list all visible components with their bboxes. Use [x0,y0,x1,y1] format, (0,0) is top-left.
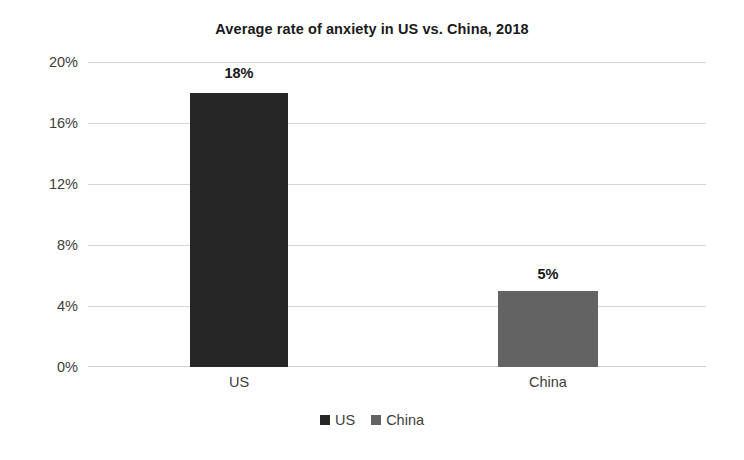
gridline-20 [88,62,706,63]
axis-baseline [88,366,706,367]
legend-swatch-icon-china [371,415,381,425]
gridline-12 [88,184,706,185]
legend-item-china[interactable]: China [371,412,424,428]
y-axis-tick-12: 12% [14,176,78,192]
bar-label-china: 5% [498,266,598,282]
y-axis-tick-16: 16% [14,115,78,131]
bar-chart: Average rate of anxiety in US vs. China,… [0,0,744,460]
gridline-16 [88,123,706,124]
y-axis-tick-4: 4% [14,298,78,314]
x-axis-label-us: US [190,374,288,390]
y-axis-tick-8: 8% [14,237,78,253]
y-axis-tick-20: 20% [14,54,78,70]
chart-title: Average rate of anxiety in US vs. China,… [0,21,744,37]
gridline-8 [88,245,706,246]
plot-area [88,62,706,367]
y-axis-tick-0: 0% [14,359,78,375]
chart-legend: US China [0,412,744,428]
legend-swatch-icon-us [320,415,330,425]
legend-item-us[interactable]: US [320,412,355,428]
bar-label-us: 18% [190,65,288,81]
gridline-4 [88,306,706,307]
bar-china[interactable] [498,291,598,367]
legend-label-us: US [335,412,355,428]
legend-label-china: China [386,412,424,428]
x-axis-label-china: China [498,374,598,390]
bar-us[interactable] [190,93,288,367]
